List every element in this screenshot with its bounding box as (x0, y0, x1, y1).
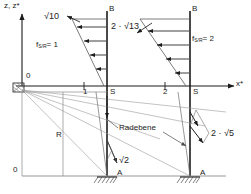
horizontal-axis-label: x* (236, 80, 243, 88)
left-diagonal-label: √2 (119, 156, 129, 165)
right-load-value: = 2 (203, 34, 214, 43)
right-base-station-label: S (193, 88, 198, 96)
right-station-label: 2 (163, 88, 167, 96)
origin-top-label: 0 (26, 72, 30, 80)
radius-label: R (56, 131, 62, 139)
right-top-node-label: B (192, 5, 197, 13)
left-top-node-label: B (109, 5, 114, 13)
right-lower-vectors (163, 92, 209, 176)
left-load-distribution (67, 16, 107, 86)
left-bottom-node-label: A (117, 169, 122, 177)
left-load-label: fS/R= 1 (36, 41, 58, 49)
right-resultant-label: 2 · √13 (111, 22, 139, 31)
vertical-axis-label: z, z* (4, 2, 20, 10)
left-base-support (94, 177, 117, 183)
right-load-label: fS/R= 2 (192, 35, 214, 43)
left-resultant-label: √10 (44, 12, 59, 21)
right-load-subscript: S/R (194, 37, 202, 43)
left-base-station-label: S (110, 88, 115, 96)
right-base-support (177, 177, 200, 183)
origin-bottom-label: 0 (13, 166, 17, 174)
right-bottom-node-label: A (200, 169, 205, 177)
right-diagonal-label: 2 · √5 (211, 129, 234, 138)
force-diagram-figure: z, z* x* 0 0 √10 fS/R= 1 B 1 S A √2 2 · … (0, 0, 251, 194)
left-station-label: 1 (83, 88, 87, 96)
right-load-distribution (137, 19, 190, 86)
left-load-subscript: S/R (38, 43, 46, 49)
left-load-value: = 1 (47, 40, 58, 49)
radebene-label: Radebene (119, 124, 156, 132)
radebene-leader (108, 120, 118, 128)
